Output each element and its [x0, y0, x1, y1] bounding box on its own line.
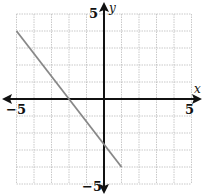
x-tick-label-min: −5 [6, 102, 26, 117]
coordinate-plane: x y −5 5 5 −5 [0, 0, 203, 195]
y-tick-label-max: 5 [89, 6, 98, 21]
y-tick-label-min: −5 [82, 179, 102, 194]
y-axis-label: y [108, 1, 116, 15]
x-tick-label-max: 5 [185, 102, 194, 117]
x-axis-label: x [194, 82, 201, 96]
